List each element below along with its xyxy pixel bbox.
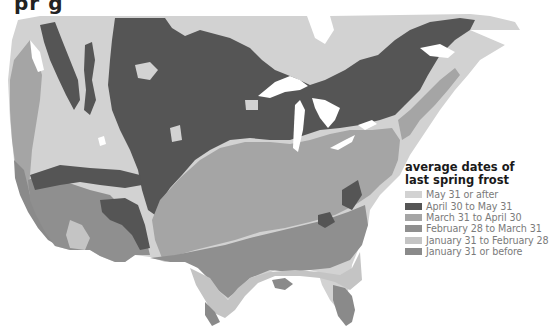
legend-swatch — [405, 225, 422, 232]
legend-item: April 30 to May 31 — [405, 200, 548, 211]
legend-title-line2: last spring frost — [405, 174, 548, 187]
legend-item: January 31 or before — [405, 246, 548, 257]
legend-swatch — [405, 237, 422, 244]
region-light-patch-2 — [170, 125, 182, 142]
legend-item: February 28 to March 31 — [405, 223, 548, 234]
legend-label: January 31 to February 28 — [426, 235, 549, 246]
legend-title-line1: average dates of — [405, 161, 548, 174]
legend-label: March 31 to April 30 — [426, 212, 521, 223]
legend-swatch — [405, 214, 422, 221]
legend-swatch — [405, 203, 422, 210]
region-florida — [333, 285, 355, 326]
legend: average dates of last spring frost May 3… — [405, 161, 548, 257]
legend-title: average dates of last spring frost — [405, 161, 548, 186]
legend-swatch — [405, 248, 422, 255]
legend-item: May 31 or after — [405, 189, 548, 200]
legend-label: February 28 to March 31 — [426, 223, 542, 234]
legend-item: March 31 to April 30 — [405, 212, 548, 223]
legend-label: April 30 to May 31 — [426, 201, 512, 212]
legend-label: May 31 or after — [426, 189, 498, 200]
legend-label: January 31 or before — [426, 246, 522, 257]
legend-item: January 31 to February 28 — [405, 235, 548, 246]
legend-swatch — [405, 191, 422, 198]
region-light-patch-3 — [245, 100, 258, 110]
region-louisiana-coast — [272, 278, 293, 290]
